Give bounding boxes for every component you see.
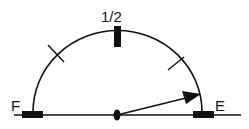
needle-pivot xyxy=(114,110,121,121)
tick-three-quarter xyxy=(48,45,64,62)
tick-half xyxy=(114,26,121,47)
needle-arrowhead xyxy=(182,91,201,104)
label-empty: E xyxy=(215,98,225,113)
tick-one-quarter xyxy=(168,57,184,70)
fuel-gauge-diagram xyxy=(0,0,249,129)
label-full: F xyxy=(11,98,20,113)
needle xyxy=(117,98,186,115)
tick-empty xyxy=(193,111,214,118)
tick-full xyxy=(22,111,43,118)
label-half: 1/2 xyxy=(101,9,122,24)
